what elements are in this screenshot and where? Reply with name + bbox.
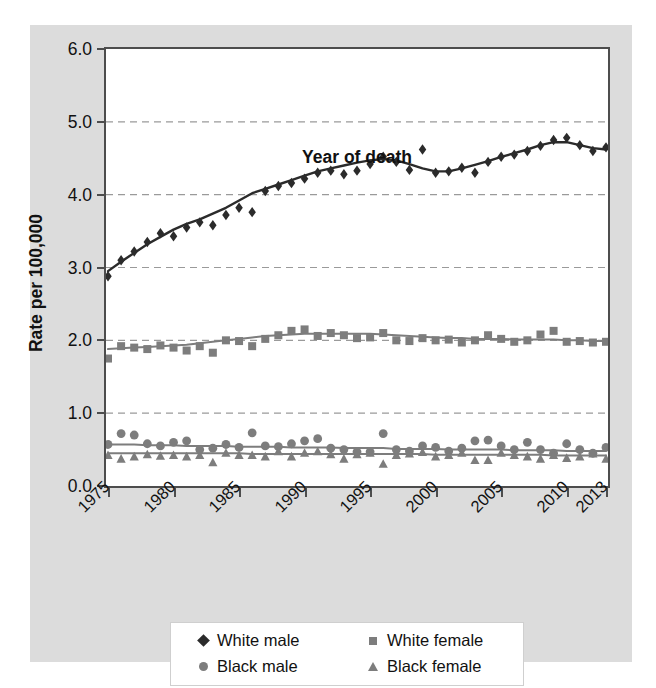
data-point-circle <box>156 442 165 451</box>
data-point-triangle <box>483 456 492 465</box>
data-point-square <box>405 337 413 345</box>
data-point-square <box>419 334 427 342</box>
data-point-square <box>550 327 558 335</box>
legend-label: White male <box>217 631 300 650</box>
data-point-square <box>235 337 243 345</box>
data-point-square <box>327 329 335 337</box>
data-point-circle <box>562 439 571 448</box>
data-point-square <box>353 334 361 342</box>
data-point-square <box>563 338 571 346</box>
y-tick-label: 3.0 <box>68 257 92 278</box>
data-point-circle <box>379 429 388 438</box>
data-point-circle <box>130 431 139 440</box>
data-point-circle <box>484 436 493 445</box>
data-point-square <box>209 349 217 357</box>
data-point-circle <box>339 445 348 454</box>
data-point-square <box>196 342 204 350</box>
chart-legend: White maleWhite femaleBlack maleBlack fe… <box>170 622 524 686</box>
legend-item-white-male[interactable]: White male <box>197 631 300 650</box>
legend-item-black-female[interactable]: Black female <box>367 657 481 676</box>
data-point-triangle <box>208 458 217 467</box>
data-point-square <box>497 335 505 343</box>
square-marker-icon <box>367 637 379 645</box>
figure-panel: Rate per 100,000 0.01.02.03.04.05.06.0 1… <box>30 25 632 662</box>
data-point-square <box>445 336 453 344</box>
y-tick-mark <box>97 267 106 269</box>
triangle-marker-icon <box>367 662 379 671</box>
data-point-square <box>510 338 518 346</box>
data-point-circle <box>287 439 296 448</box>
data-point-triangle <box>431 452 440 461</box>
data-point-triangle <box>234 450 243 459</box>
data-point-circle <box>313 434 322 443</box>
data-point-diamond <box>471 168 478 178</box>
data-point-circle <box>471 436 480 445</box>
data-point-triangle <box>169 450 178 459</box>
data-point-square <box>392 336 400 344</box>
diamond-marker-icon <box>197 636 209 645</box>
data-point-circle <box>300 436 309 445</box>
data-point-square <box>222 336 230 344</box>
data-point-diamond <box>222 210 229 220</box>
data-point-diamond <box>235 203 242 213</box>
data-point-diamond <box>170 231 177 241</box>
data-point-square <box>340 331 348 339</box>
y-tick-mark <box>97 194 106 196</box>
data-point-square <box>143 345 151 353</box>
data-point-square <box>156 341 164 349</box>
x-axis-title: Year of death <box>104 147 610 168</box>
data-point-circle <box>536 445 545 454</box>
data-point-square <box>602 338 608 346</box>
data-point-square <box>117 342 125 350</box>
data-point-circle <box>248 428 257 437</box>
y-tick-label: 4.0 <box>68 184 92 205</box>
y-tick-label: 1.0 <box>68 403 92 424</box>
data-point-square <box>130 344 138 352</box>
plot-area <box>104 47 610 488</box>
data-point-square <box>379 329 387 337</box>
chart-canvas <box>106 49 608 486</box>
legend-item-black-male[interactable]: Black male <box>197 657 298 676</box>
data-point-circle <box>117 429 126 438</box>
data-point-square <box>183 347 191 355</box>
y-tick-mark <box>97 339 106 341</box>
data-point-square <box>170 344 178 352</box>
data-point-circle <box>431 443 440 452</box>
legend-label: Black male <box>217 657 298 676</box>
data-point-square <box>314 332 322 340</box>
data-point-circle <box>143 439 152 448</box>
data-point-circle <box>222 440 231 449</box>
data-point-triangle <box>379 459 388 468</box>
data-point-square <box>576 337 584 345</box>
data-point-diamond <box>209 220 216 230</box>
data-point-triangle <box>470 456 479 465</box>
data-point-square <box>248 342 256 350</box>
y-tick-label: 6.0 <box>68 39 92 60</box>
plot-wrapper: 0.01.02.03.04.05.06.0 197519801985199019… <box>104 47 610 513</box>
y-tick-mark <box>97 121 106 123</box>
legend-item-white-female[interactable]: White female <box>367 631 483 650</box>
data-point-diamond <box>275 181 282 191</box>
data-point-circle <box>208 444 217 453</box>
data-point-square <box>589 339 597 347</box>
data-point-square <box>261 335 269 343</box>
data-point-triangle <box>523 452 532 461</box>
data-point-circle <box>182 436 191 445</box>
y-tick-label: 2.0 <box>68 330 92 351</box>
data-point-triangle <box>339 454 348 463</box>
data-point-circle <box>261 442 270 451</box>
data-point-diamond <box>248 207 255 217</box>
data-point-triangle <box>117 454 126 463</box>
y-axis-title: Rate per 100,000 <box>26 214 47 352</box>
data-point-circle <box>523 438 532 447</box>
data-point-square <box>106 355 112 363</box>
data-point-diamond <box>432 168 439 178</box>
data-point-square <box>536 331 544 339</box>
legend-label: White female <box>387 631 483 650</box>
series-white-female <box>106 325 608 362</box>
data-point-square <box>484 331 492 339</box>
data-point-diamond <box>157 228 164 238</box>
data-point-square <box>523 336 531 344</box>
data-point-circle <box>169 438 178 447</box>
data-point-triangle <box>106 450 113 459</box>
